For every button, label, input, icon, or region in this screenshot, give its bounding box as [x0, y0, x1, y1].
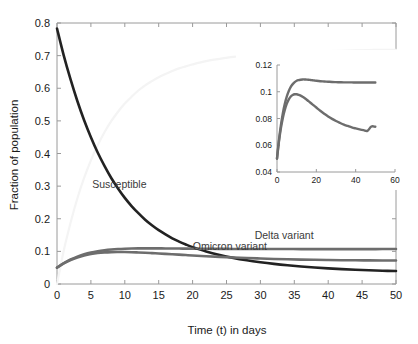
- x-tick-label: 40: [322, 289, 334, 301]
- inset-y-tick-label: 0.06: [255, 140, 272, 150]
- x-tick-label: 25: [220, 289, 232, 301]
- x-tick-label: 0: [54, 289, 60, 301]
- inset-chart: 02040600.040.060.080.10.12: [236, 50, 414, 190]
- y-tick-label: 0.6: [35, 82, 50, 94]
- inset-y-tick-label: 0.12: [255, 60, 272, 70]
- y-tick-label: 0.7: [35, 50, 50, 62]
- x-tick-label: 45: [356, 289, 368, 301]
- x-tick-label: 15: [153, 289, 165, 301]
- inset-x-tick-label: 20: [312, 175, 322, 185]
- inset-x-tick-label: 60: [390, 175, 400, 185]
- series-annotation-omicron-variant: Omicron variant: [193, 240, 267, 252]
- y-tick-label: 0: [44, 278, 50, 290]
- y-tick-label: 0.3: [35, 180, 50, 192]
- y-tick-label: 0.5: [35, 115, 50, 127]
- inset-y-tick-label: 0.1: [260, 87, 272, 97]
- x-tick-label: 30: [254, 289, 266, 301]
- inset-x-tick-label: 40: [351, 175, 361, 185]
- y-tick-label: 0.1: [35, 245, 50, 257]
- line-chart: 0510152025303540455000.10.20.30.40.50.60…: [0, 0, 418, 344]
- series-annotation-susceptible: Susceptible: [92, 178, 146, 190]
- x-tick-label: 20: [186, 289, 198, 301]
- y-axis-title: Fraction of population: [8, 100, 20, 211]
- inset-x-tick-label: 0: [275, 175, 280, 185]
- y-tick-label: 0.2: [35, 213, 50, 225]
- y-tick-label: 0.4: [35, 148, 50, 160]
- figure-container: 0510152025303540455000.10.20.30.40.50.60…: [0, 0, 418, 344]
- x-tick-label: 5: [88, 289, 94, 301]
- x-tick-label: 50: [390, 289, 402, 301]
- inset-y-tick-label: 0.04: [255, 167, 272, 177]
- inset-y-tick-label: 0.08: [255, 114, 272, 124]
- x-tick-label: 10: [119, 289, 131, 301]
- y-tick-label: 0.8: [35, 17, 50, 29]
- x-tick-label: 35: [288, 289, 300, 301]
- x-axis-title: Time (t) in days: [188, 324, 267, 336]
